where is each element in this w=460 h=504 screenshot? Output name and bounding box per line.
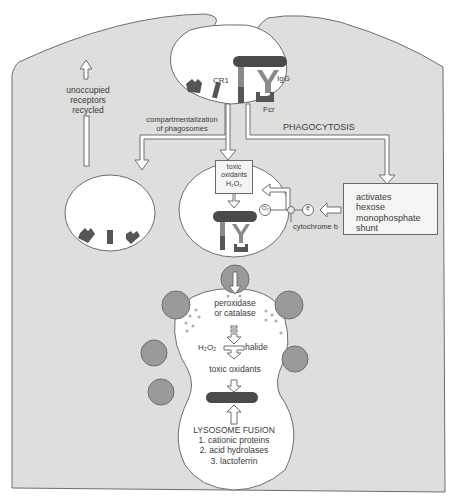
label-peroxidase: peroxidase or catalase [200, 299, 270, 319]
label-e: e [304, 204, 312, 212]
fusion-title: LYSOSOME FUSION [186, 425, 282, 435]
label-halide: halide [245, 343, 268, 353]
hmp-line-1: activates [356, 192, 437, 202]
label-compartment: compartmentalization of phagosomes [140, 116, 224, 133]
ligand-phagosome [220, 222, 225, 236]
receptor-phagosome [220, 236, 225, 250]
receptor-left-2 [107, 230, 113, 244]
bacterium-phagosome [213, 211, 257, 222]
recycled-line-3: recycled [62, 106, 114, 116]
hmp-line-2: hexose [356, 202, 437, 212]
toxic-line-2: oxidants [216, 171, 252, 179]
fusion-item-1: 1. cationic proteins [186, 435, 282, 445]
label-cr1: CR1 [213, 76, 229, 85]
hmp-line-4: shunt [356, 223, 437, 233]
toxic-line-1: toxic [216, 163, 252, 171]
phagocytosis-diagram: CR1 IgG Fcr unoccupied receptors recycle… [0, 0, 460, 504]
label-h2o2: H₂O₂ [198, 343, 216, 352]
label-cytochrome: cytochrome b [293, 223, 338, 232]
bacterium-top [233, 56, 287, 67]
hmp-line-3: monophosphate [356, 213, 437, 223]
label-recycled: unoccupied receptors recycled [62, 86, 114, 115]
cytochrome-node [288, 207, 295, 214]
fusion-item-2: 2. acid hydrolases [186, 445, 282, 455]
hmp-shunt-box: activates hexose monophosphate shunt [343, 183, 438, 235]
cr-receptor-dark [238, 87, 244, 103]
label-phagocytosis: PHAGOCYTOSIS [283, 122, 355, 132]
compartment-line-2: of phagosomes [140, 125, 224, 134]
label-lysosome-fusion: LYSOSOME FUSION 1. cationic proteins 2. … [186, 425, 282, 466]
fusion-item-3: 3. lactoferrin [186, 456, 282, 466]
label-o2: O₂ [260, 205, 271, 212]
label-igg: IgG [277, 74, 290, 83]
label-toxic-oxidants: toxic oxidants [200, 365, 270, 375]
c3b-ligand [238, 67, 244, 87]
bacterium-vacuole [206, 392, 258, 403]
peroxidase-line-2: or catalase [200, 309, 270, 319]
toxic-oxidants-box: toxic oxidants H₂O₂ [215, 160, 253, 194]
toxic-line-3: H₂O₂ [216, 180, 252, 188]
label-fcr: Fcr [263, 105, 275, 114]
